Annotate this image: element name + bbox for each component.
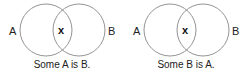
- intersection-mark: x: [182, 25, 188, 36]
- caption: Some B is A.: [124, 59, 247, 70]
- venn-diagrams: A B x Some A is B. A B x Some B is A.: [0, 0, 247, 77]
- intersection-mark: x: [58, 25, 64, 36]
- circle-a: [20, 4, 72, 56]
- venn-some-a-is-b: A B x Some A is B.: [0, 0, 124, 77]
- label-a: A: [9, 26, 16, 37]
- label-a: A: [133, 26, 140, 37]
- venn-some-b-is-a: A B x Some B is A.: [124, 0, 247, 77]
- caption: Some A is B.: [0, 59, 124, 70]
- label-b: B: [232, 26, 239, 37]
- circle-a: [144, 4, 196, 56]
- label-b: B: [108, 26, 115, 37]
